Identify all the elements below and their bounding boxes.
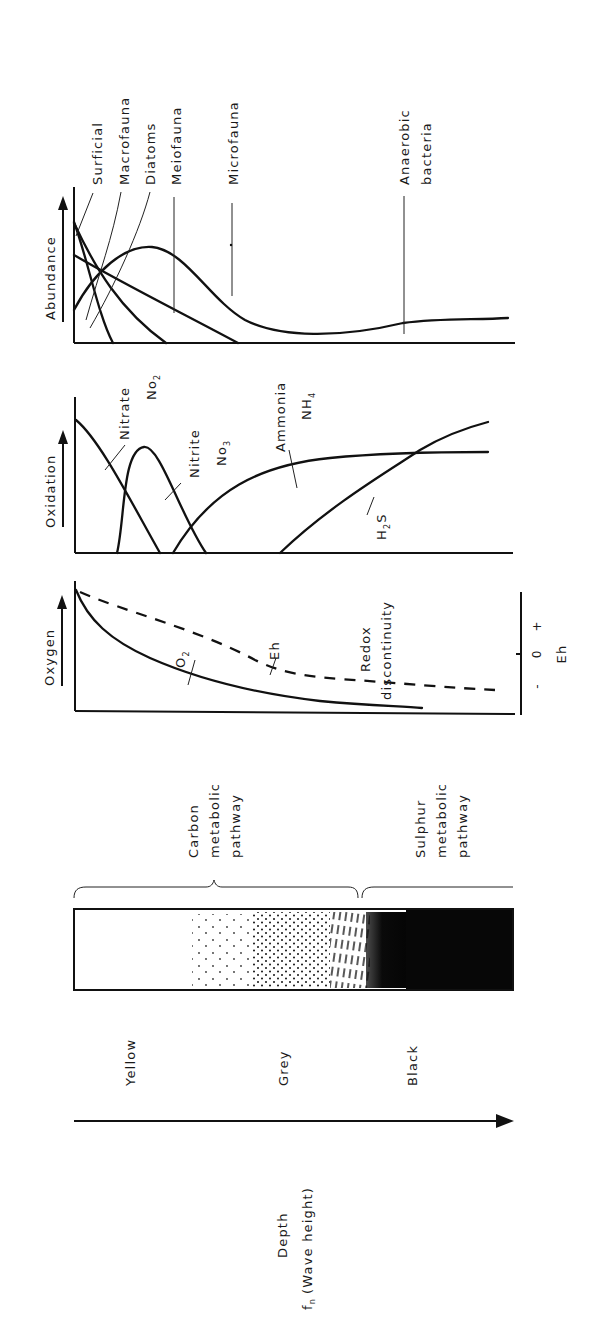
- sediment-profile-figure: Abundance Surficial Macrofauna Diatoms M…: [0, 0, 589, 1326]
- surficial-leader: [76, 193, 93, 236]
- redox-label-line2: discontinuity: [379, 601, 394, 700]
- depth-sublabel: fn(Wave height): [300, 1187, 317, 1310]
- carbon-pathway-line3: pathway: [228, 794, 243, 858]
- nitrate-leader: [105, 445, 125, 470]
- depth-sublabel-wave-height: (Wave height): [300, 1187, 315, 1294]
- o2-sub: 2: [182, 650, 191, 656]
- eh-scale-label: Eh: [554, 645, 569, 664]
- oxygen-axis-label: Oxygen: [42, 629, 57, 686]
- eh-scale-minus: -: [530, 683, 544, 688]
- abundance-arrow-icon: [58, 196, 68, 210]
- black-zone: [406, 909, 513, 990]
- transition-black-zone: [366, 912, 406, 988]
- oxidation-panel: Oxidation Nitrate No2 Nitrite No3 Ammoni…: [43, 374, 513, 553]
- depth-arrow-icon: [496, 1114, 514, 1128]
- eh-curve: [80, 592, 495, 690]
- depth-label: Depth: [275, 1212, 290, 1258]
- nitrite-formula-main: No: [214, 446, 229, 466]
- nitrite-label: Nitrite: [187, 429, 202, 478]
- nitrite-formula-sub: 3: [223, 440, 232, 446]
- carbon-pathway-line1: Carbon: [186, 804, 201, 858]
- oxygen-panel: Oxygen O2 Eh Redox discontinuity + 0 - E…: [42, 581, 569, 715]
- nitrate-formula-sub: 2: [153, 374, 162, 380]
- abundance-axis-label: Abundance: [43, 236, 58, 320]
- microfauna-label: Microfauna: [226, 101, 241, 185]
- ammonia-formula-sub: 4: [308, 392, 317, 398]
- anaerobic-label-line1: Anaerobic: [397, 109, 412, 185]
- oxidation-axis-label: Oxidation: [43, 455, 58, 528]
- abundance-panel: Abundance Surficial Macrofauna Diatoms M…: [43, 97, 515, 343]
- dashes-zone: [330, 912, 370, 988]
- anaerobic-label-line2: bacteria: [419, 122, 434, 185]
- diatoms-curve: [74, 255, 238, 343]
- o2-main: O: [173, 657, 188, 668]
- zone-grey-label: Grey: [276, 1050, 291, 1086]
- microfauna-dot: [230, 244, 232, 246]
- nitrite-leader: [165, 483, 181, 500]
- diatoms-label: Diatoms: [143, 123, 158, 185]
- carbon-pathway-brace: [74, 880, 358, 898]
- sparse-dots-zone: [192, 914, 252, 986]
- sulphur-pathway-line3: pathway: [455, 794, 470, 858]
- nitrate-label: Nitrate: [117, 387, 132, 440]
- nitrate-formula: No2: [144, 374, 162, 400]
- sulphur-pathway-line1: Sulphur: [413, 799, 428, 858]
- h2s-leader: [367, 497, 374, 515]
- depth-axis-section: Yellow Grey Black Depth fn(Wave height): [74, 1039, 514, 1310]
- nitrite-formula: No3: [214, 440, 232, 466]
- redox-label-line1: Redox: [358, 626, 373, 672]
- oxygen-arrow-icon: [57, 595, 67, 609]
- carbon-pathway-line2: metabolic: [207, 783, 222, 858]
- nitrate-formula-main: No: [144, 380, 159, 400]
- sulphur-pathway-line2: metabolic: [434, 783, 449, 858]
- eh-scale-plus: +: [530, 620, 544, 631]
- macrofauna-curve: [74, 223, 166, 343]
- ammonia-formula-main: NH: [299, 398, 314, 420]
- ammonia-leader: [289, 450, 297, 488]
- sulphur-pathway-brace: [362, 887, 513, 898]
- macrofauna-label: Macrofauna: [117, 97, 132, 185]
- meiofauna-label: Meiofauna: [169, 106, 184, 185]
- ammonia-curve: [173, 452, 488, 553]
- eh-label: Eh: [267, 641, 282, 660]
- oxidation-arrow-icon: [58, 430, 68, 444]
- zone-yellow-label: Yellow: [123, 1039, 138, 1087]
- depth-sublabel-n: n: [308, 1298, 317, 1304]
- oxygen-depth-axis: [75, 711, 515, 714]
- dense-dots-zone: [252, 912, 330, 988]
- h2s-label: H2S: [374, 513, 392, 540]
- zone-black-label: Black: [405, 1045, 420, 1086]
- eh-scale-zero: 0: [530, 650, 544, 659]
- surficial-label: Surficial: [90, 122, 105, 185]
- h2s-tail: S: [374, 513, 389, 522]
- sediment-column-section: Carbon metabolic pathway Sulphur metabol…: [74, 783, 513, 990]
- ammonia-label: Ammonia: [273, 382, 288, 452]
- ammonia-formula: NH4: [299, 392, 317, 420]
- h2s-main: H: [374, 529, 389, 540]
- o2-label: O2: [173, 650, 191, 668]
